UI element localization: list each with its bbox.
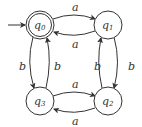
edge-q0-q1 bbox=[53, 15, 95, 19]
label-b-right-out: b bbox=[94, 60, 101, 73]
edge-q2-q3 bbox=[54, 108, 95, 112]
label-a-mid-top: a bbox=[72, 38, 79, 51]
state-q2: q2 bbox=[94, 87, 122, 115]
edge-q3-q2 bbox=[53, 92, 95, 96]
edge-q3-q0 bbox=[46, 38, 49, 88]
label-a-mid-bottom: a bbox=[72, 78, 79, 91]
automaton-canvas: q0 q1 q3 q2 a a a a b b b b bbox=[0, 0, 142, 127]
label-b-left-out: b bbox=[19, 60, 26, 73]
label-b-right-in: b bbox=[128, 60, 135, 73]
edge-q1-q2 bbox=[114, 37, 118, 88]
state-q0: q0 bbox=[26, 11, 54, 39]
edge-q1-q0 bbox=[54, 31, 95, 35]
edge-q0-q3 bbox=[30, 37, 34, 88]
automaton-diagram: q0 q1 q3 q2 a a a a b b b b bbox=[0, 0, 142, 127]
label-b-left-in: b bbox=[54, 60, 61, 73]
label-a-bottom: a bbox=[72, 115, 79, 127]
label-a-top: a bbox=[72, 1, 79, 14]
state-q3: q3 bbox=[26, 87, 54, 115]
state-q1: q1 bbox=[94, 11, 122, 39]
